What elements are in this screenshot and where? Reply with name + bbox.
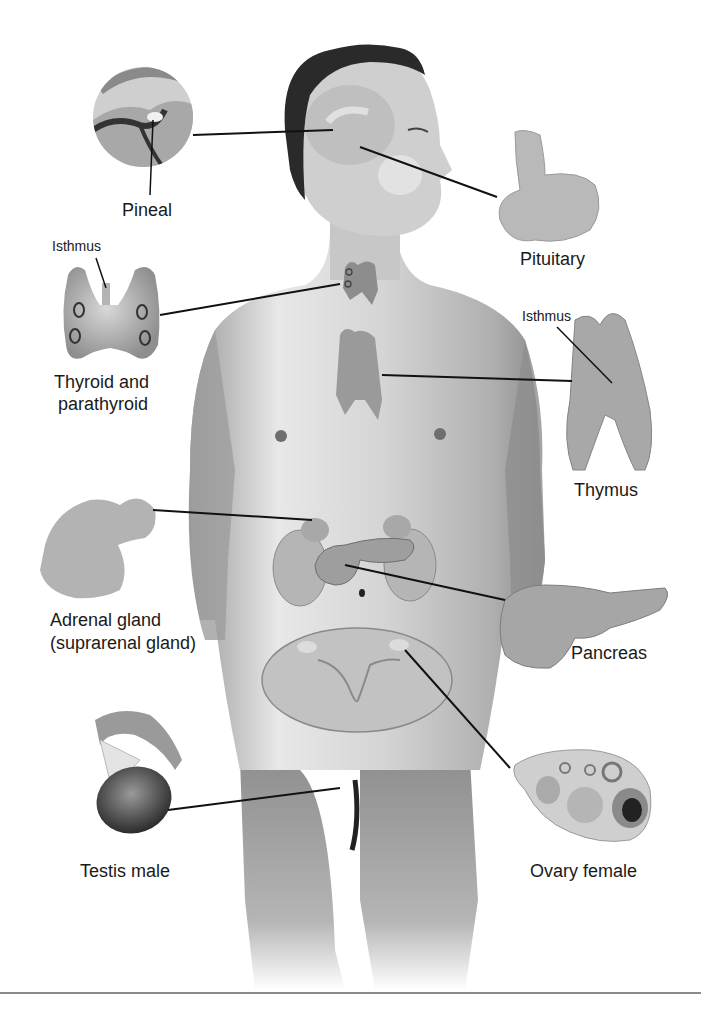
human-figure <box>189 44 545 990</box>
thyroid-illustration <box>63 267 159 359</box>
pituitary-illustration <box>499 131 599 242</box>
thymus-illustration <box>567 314 652 470</box>
label-ovary: Ovary female <box>530 861 637 882</box>
label-thyroid-line1: Thyroid and <box>54 372 149 393</box>
adrenal-illustration <box>40 499 156 599</box>
diagram-canvas <box>0 0 701 1010</box>
ovary-illustration <box>514 750 651 842</box>
label-thymus: Thymus <box>574 480 638 501</box>
bottom-rule <box>0 992 701 994</box>
head <box>285 44 452 236</box>
label-testis: Testis male <box>80 861 170 882</box>
label-pancreas: Pancreas <box>571 643 647 664</box>
label-adrenal-line1: Adrenal gland <box>50 610 161 631</box>
label-isthmus-thyroid: Isthmus <box>52 238 101 254</box>
pelvis-region <box>262 628 452 732</box>
label-pituitary: Pituitary <box>520 249 585 270</box>
leader-isthmus-thyroid <box>96 258 106 288</box>
endocrine-diagram <box>0 0 701 1010</box>
label-isthmus-thymus: Isthmus <box>522 308 571 324</box>
pineal-inset <box>93 67 195 170</box>
label-thyroid-line2: parathyroid <box>58 394 148 415</box>
label-pineal: Pineal <box>122 200 172 221</box>
testis-illustration <box>87 711 182 844</box>
label-adrenal-line2: (suprarenal gland) <box>50 633 196 654</box>
